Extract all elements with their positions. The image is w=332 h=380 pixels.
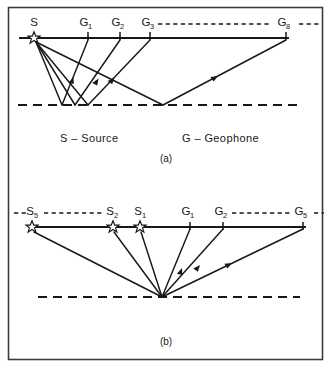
panel-a-upray-g1 [62, 40, 88, 105]
panel-b-label-s5: S 5 [26, 205, 38, 220]
panel-b-label: (b) [160, 336, 172, 347]
svg-text:1: 1 [142, 211, 146, 220]
panel-b-downray-s2 [114, 232, 162, 297]
panel-b-source-star-s2-icon [107, 221, 119, 232]
panel-b-label-s2: S 2 [106, 205, 118, 220]
panel-b: S 5 S 2 S 1 G 1 G 2 G 5 [14, 205, 324, 347]
panel-b-label-g1: G 1 [182, 205, 195, 220]
panel-b-label-g5: G 5 [295, 205, 308, 220]
legend-geophone: G – Geophone [182, 132, 259, 144]
panel-b-source-star-s5-icon [26, 221, 38, 232]
panel-b-source-star-s1-icon [134, 221, 146, 232]
svg-text:5: 5 [303, 211, 307, 220]
svg-text:2: 2 [120, 22, 124, 31]
svg-text:1: 1 [190, 211, 194, 220]
panel-a-label-g2: G 2 [112, 16, 125, 31]
svg-text:2: 2 [114, 211, 118, 220]
panel-a-upray-g8 [163, 40, 286, 105]
svg-text:2: 2 [223, 211, 227, 220]
panel-b-downray-s5 [34, 232, 162, 297]
panel-a-downray-g1 [36, 42, 62, 105]
panel-a: S G 1 G 2 G 3 G 8 S – Source G – Geophon… [18, 16, 320, 164]
panel-a-label: (a) [160, 153, 172, 164]
panel-b-arrow-g2-icon [193, 263, 202, 272]
panel-b-label-g2: G 2 [215, 205, 228, 220]
figure-container: S G 1 G 2 G 3 G 8 S – Source G – Geophon… [0, 0, 332, 380]
seismic-survey-diagram: S G 1 G 2 G 3 G 8 S – Source G – Geophon… [0, 0, 332, 380]
panel-a-label-s: S [30, 16, 38, 28]
panel-b-arrow-g1-icon [177, 267, 185, 276]
svg-text:8: 8 [286, 22, 290, 31]
panel-a-label-g1: G 1 [80, 16, 93, 31]
legend-source: S – Source [60, 132, 118, 144]
panel-b-label-s1: S 1 [134, 205, 146, 220]
panel-b-upray-g1 [162, 229, 190, 297]
panel-a-source-star-icon [28, 32, 40, 43]
svg-text:5: 5 [34, 211, 38, 220]
svg-text:1: 1 [88, 22, 92, 31]
panel-b-arrow-g5-icon [224, 261, 233, 269]
panel-a-downray-g3 [36, 42, 88, 105]
panel-a-label-g8: G 8 [278, 16, 291, 31]
figure-border [9, 8, 323, 360]
panel-b-upray-g5 [162, 229, 303, 297]
svg-text:3: 3 [150, 22, 154, 31]
panel-b-upray-g2 [162, 229, 223, 297]
panel-a-arrow-g8-icon [210, 74, 219, 82]
panel-a-label-g3: G 3 [142, 16, 155, 31]
